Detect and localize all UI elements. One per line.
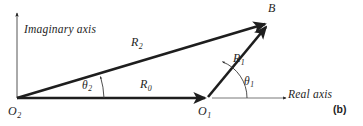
vector-r1-subscript: 1 — [240, 58, 244, 67]
figure-caption: (b) — [333, 103, 346, 115]
angle-theta1-name: θ — [244, 75, 250, 87]
point-o2-subscript: 2 — [17, 111, 21, 120]
vector-r0-subscript: 0 — [147, 84, 151, 93]
vector-diagram-figure: Imaginary axis Real axis O2 O1 B R0 R1 R… — [0, 0, 363, 126]
vector-label-r2: R2 — [131, 36, 143, 50]
point-o1-name: O — [198, 104, 207, 118]
angle-theta2-name: θ — [82, 79, 88, 91]
angle-label-theta2: θ2 — [82, 80, 92, 93]
vector-r2-subscript: 2 — [138, 42, 142, 51]
angle-label-theta1: θ1 — [244, 76, 254, 89]
vector-diagram-canvas — [0, 0, 363, 126]
angle-theta1-subscript: 1 — [250, 80, 254, 89]
angle-theta2-arc — [101, 77, 105, 98]
point-label-b: B — [268, 2, 276, 16]
point-label-o2: O2 — [8, 105, 21, 119]
point-o2-name: O — [8, 104, 17, 118]
vector-label-r1: R1 — [233, 52, 245, 66]
point-label-o1: O1 — [198, 105, 211, 119]
point-o1-subscript: 1 — [207, 111, 211, 120]
angle-theta2-subscript: 2 — [88, 84, 92, 93]
real-axis-label: Real axis — [288, 89, 332, 101]
imaginary-axis-label: Imaginary axis — [24, 24, 96, 36]
vector-label-r0: R0 — [140, 78, 152, 92]
point-b-subscript — [275, 8, 276, 17]
